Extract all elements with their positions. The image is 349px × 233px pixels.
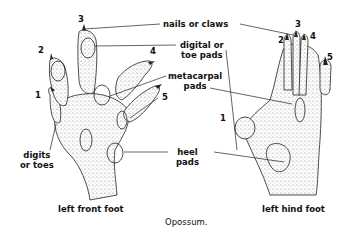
opossum-feet-diagram: 3 2 4 1 5 3 2 4 5 1 nails or claws digit… (0, 0, 349, 233)
front-digit-2-number: 2 (38, 45, 44, 55)
front-digit-5-number: 5 (162, 92, 168, 102)
hind-digit-3-number: 3 (295, 19, 301, 29)
front-digit-4-number: 4 (150, 46, 156, 56)
front-foot (49, 30, 160, 200)
hind-digit-1-number: 1 (220, 113, 226, 123)
front-foot-title: left front foot (58, 204, 124, 214)
hind-digit-4-number: 4 (310, 31, 316, 41)
hind-foot-title: left hind foot (262, 204, 325, 214)
label-digital-pads: digital ortoe pads (180, 40, 224, 60)
label-nails-or-claws: nails or claws (163, 19, 228, 29)
front-digit-3-number: 3 (78, 14, 84, 24)
hind-digit-2-number: 2 (278, 35, 284, 45)
feet-illustration (0, 0, 349, 233)
label-metacarpal-pads: metacarpalpads (168, 71, 222, 91)
hind-foot (235, 32, 331, 195)
label-digits-or-toes: digitsor toes (20, 150, 54, 170)
hind-digit-5-number: 5 (327, 52, 333, 62)
figure-caption: Opossum. (165, 217, 208, 227)
front-digit-1-number: 1 (35, 90, 41, 100)
label-heel-pads: heelpads (176, 147, 199, 167)
